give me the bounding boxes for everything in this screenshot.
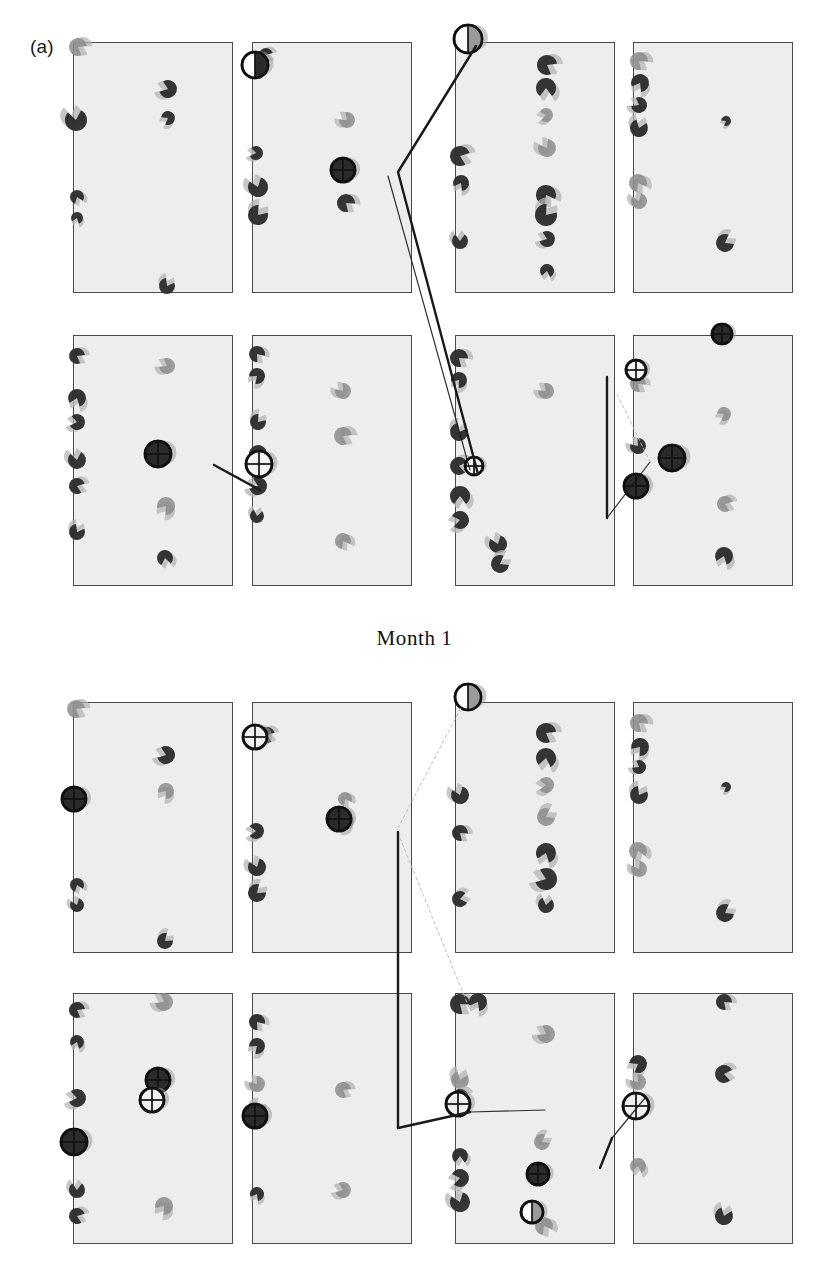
track-marker <box>62 787 91 811</box>
cluster-wedge-icon <box>64 517 90 543</box>
cluster-wedge-icon <box>64 694 93 723</box>
map-panel <box>633 993 793 1244</box>
cluster-wedge-icon <box>242 1071 268 1097</box>
cluster-wedge-icon <box>151 493 181 523</box>
cluster-wedge-icon <box>534 893 556 915</box>
panel-markers <box>193 0 473 354</box>
cluster-wedge-icon <box>246 505 265 524</box>
cluster-wedge-icon <box>624 779 653 808</box>
cluster-wedge-icon <box>626 169 655 198</box>
track-marker <box>246 451 277 477</box>
cluster-wedge-icon <box>623 1069 649 1095</box>
cluster-wedge-icon <box>65 894 86 915</box>
cluster-wedge-icon <box>246 1184 269 1206</box>
track-marker <box>712 324 736 344</box>
cluster-wedge-icon <box>444 416 473 445</box>
cluster-wedge-icon <box>257 722 281 746</box>
map-panel <box>455 993 615 1244</box>
panel-markers <box>193 934 473 1284</box>
cluster-wedge-icon <box>534 746 561 773</box>
cluster-wedge-icon <box>69 210 87 228</box>
cluster-wedge-icon <box>627 370 653 396</box>
cluster-wedge-icon <box>244 442 273 471</box>
map-panel <box>455 702 615 953</box>
cluster-wedge-icon <box>530 1020 559 1049</box>
cluster-wedge-icon <box>444 781 471 808</box>
panel-markers <box>193 643 473 1014</box>
track-marker <box>455 684 486 710</box>
cluster-wedge-icon <box>449 172 475 198</box>
cluster-wedge-icon <box>527 864 560 897</box>
cluster-wedge-icon <box>64 386 91 413</box>
cluster-wedge-icon <box>532 716 564 748</box>
cluster-wedge-icon <box>718 780 734 796</box>
cluster-wedge-icon <box>711 544 738 571</box>
cluster-wedge-icon <box>533 228 557 252</box>
map-panel <box>73 993 233 1244</box>
cluster-wedge-icon <box>624 856 650 882</box>
cluster-wedge-icon <box>486 547 515 576</box>
cluster-wedge-icon <box>628 1157 650 1179</box>
map-panel <box>73 335 233 586</box>
map-panel <box>455 335 615 586</box>
figure-panel-letter: (a) <box>30 36 54 58</box>
cluster-wedge-icon <box>66 32 95 61</box>
cluster-wedge-icon <box>715 491 739 515</box>
map-panel <box>455 42 615 293</box>
cluster-wedge-icon <box>712 404 734 427</box>
cluster-wedge-icon <box>482 530 509 557</box>
cluster-wedge-icon <box>624 93 650 119</box>
cluster-wedge-icon <box>152 926 178 952</box>
cluster-wedge-icon <box>241 196 274 229</box>
cluster-wedge-icon <box>244 407 270 433</box>
cluster-wedge-icon <box>527 194 563 230</box>
cluster-wedge-icon <box>450 886 472 908</box>
cluster-wedge-icon <box>624 113 651 140</box>
map-panel <box>252 42 412 293</box>
cluster-wedge-icon <box>242 1095 272 1125</box>
cluster-wedge-icon <box>536 107 555 126</box>
cluster-wedge-icon <box>625 734 655 764</box>
cluster-wedge-icon <box>67 473 91 497</box>
cluster-wedge-icon <box>447 510 471 535</box>
track-marker <box>327 807 356 831</box>
cluster-wedge-icon <box>152 354 178 380</box>
map-panel <box>73 702 233 953</box>
track-marker <box>242 52 273 78</box>
cluster-wedge-icon <box>244 365 270 391</box>
track-marker <box>331 158 360 182</box>
cluster-wedge-icon <box>245 144 264 163</box>
cluster-wedge-icon <box>330 808 360 838</box>
cluster-wedge-icon <box>246 1009 272 1035</box>
cluster-wedge-icon <box>257 44 278 65</box>
cluster-wedge-icon <box>149 1193 179 1223</box>
track-marker <box>61 1129 92 1155</box>
cluster-wedge-icon <box>450 486 474 509</box>
cluster-wedge-icon <box>535 777 554 796</box>
cluster-wedge-icon <box>328 378 354 404</box>
panel-markers <box>193 276 473 647</box>
cluster-wedge-icon <box>68 187 89 208</box>
cluster-wedge-icon <box>154 271 180 297</box>
map-panel <box>633 702 793 953</box>
map-panel <box>633 42 793 293</box>
cluster-wedge-icon <box>446 987 479 1020</box>
cluster-wedge-icon <box>445 1065 472 1092</box>
cluster-wedge-icon <box>329 1179 353 1203</box>
cluster-wedge-icon <box>449 452 473 477</box>
track-marker <box>626 360 650 380</box>
cluster-wedge-icon <box>626 756 648 779</box>
cluster-wedge-icon <box>714 1060 738 1085</box>
cluster-wedge-icon <box>332 529 358 555</box>
cluster-wedge-icon <box>447 1168 471 1193</box>
cluster-wedge-icon <box>532 179 564 211</box>
cluster-wedge-icon <box>244 1035 270 1061</box>
cluster-wedge-icon <box>153 780 179 806</box>
track-marker <box>243 725 272 749</box>
cluster-wedge-icon <box>709 1201 736 1228</box>
cluster-wedge-icon <box>156 548 178 570</box>
cluster-wedge-icon <box>68 875 89 896</box>
cluster-wedge-icon <box>148 988 177 1017</box>
cluster-wedge-icon <box>626 71 655 100</box>
month-caption: Month 1 <box>0 626 829 651</box>
